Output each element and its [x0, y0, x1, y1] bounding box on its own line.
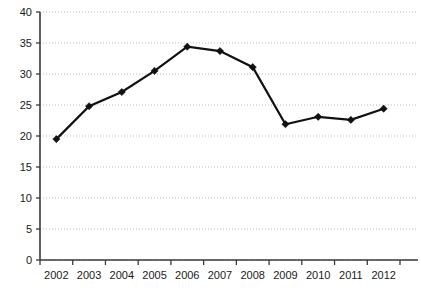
x-tick-label: 2003 — [77, 269, 101, 281]
line-chart: 0510152025303540 20022003200420052006200… — [0, 0, 421, 291]
chart-canvas: 0510152025303540 20022003200420052006200… — [0, 0, 421, 291]
y-tick-label: 5 — [26, 223, 32, 235]
x-tick-label: 2008 — [240, 269, 264, 281]
x-tick-label: 2006 — [175, 269, 199, 281]
y-tick-label: 40 — [20, 6, 32, 18]
y-tick-label: 10 — [20, 192, 32, 204]
x-tick-label: 2002 — [44, 269, 68, 281]
x-tick-label: 2009 — [273, 269, 297, 281]
y-tick-label: 15 — [20, 161, 32, 173]
x-tick-label: 2010 — [306, 269, 330, 281]
x-tick-label: 2007 — [208, 269, 232, 281]
x-tick-label: 2004 — [110, 269, 134, 281]
x-tick-label: 2012 — [371, 269, 395, 281]
chart-background — [0, 0, 421, 291]
x-axis-tick-labels: 2002200320042005200620072008200920102011… — [44, 269, 396, 281]
y-tick-label: 0 — [26, 254, 32, 266]
y-tick-label: 35 — [20, 37, 32, 49]
x-tick-label: 2005 — [142, 269, 166, 281]
y-tick-label: 30 — [20, 68, 32, 80]
x-tick-label: 2011 — [339, 269, 363, 281]
y-tick-label: 20 — [20, 130, 32, 142]
y-tick-label: 25 — [20, 99, 32, 111]
